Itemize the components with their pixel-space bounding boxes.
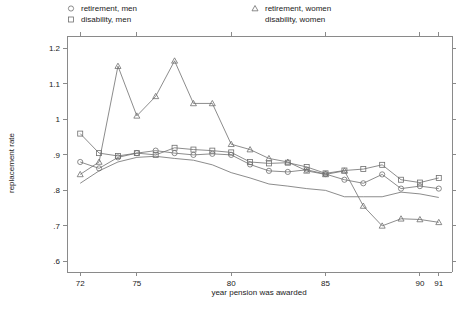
x-tick-label: 72 — [76, 279, 85, 288]
x-tick-label: 85 — [321, 279, 330, 288]
x-tick-label: 91 — [434, 279, 443, 288]
legend-label: retirement, women — [265, 4, 331, 13]
x-tick-label: 90 — [415, 279, 424, 288]
replacement-rate-line-chart: retirement, mendisability, menretirement… — [0, 0, 463, 309]
x-tick-label: 75 — [132, 279, 141, 288]
y-tick-label: .8 — [53, 186, 60, 195]
legend-label: disability, men — [81, 15, 131, 24]
x-axis-title: year pension was awarded — [211, 288, 306, 297]
legend-label: disability, women — [265, 15, 325, 24]
y-tick-label: .6 — [53, 257, 60, 266]
y-tick-label: 1 — [56, 115, 61, 124]
chart-background — [0, 0, 463, 309]
legend-label: retirement, men — [81, 4, 137, 13]
x-tick-label: 80 — [227, 279, 236, 288]
chart-figure: retirement, mendisability, menretirement… — [0, 0, 463, 309]
legend-item-disability-women: disability, women — [265, 15, 325, 24]
y-axis-title: replacement rate — [7, 132, 16, 193]
y-tick-label: .7 — [53, 222, 60, 231]
y-tick-label: .9 — [53, 151, 60, 160]
y-tick-label: 1.1 — [49, 80, 61, 89]
y-tick-label: 1.2 — [49, 44, 61, 53]
